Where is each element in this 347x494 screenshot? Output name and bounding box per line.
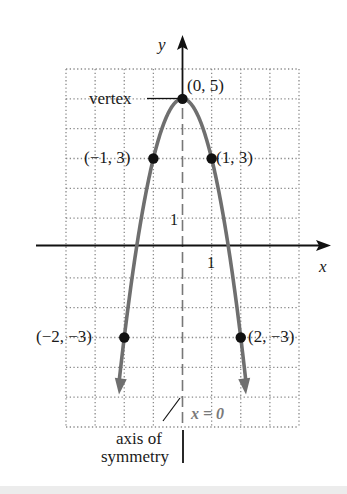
point-label-0-5: (0, 5)	[187, 76, 224, 95]
data-point	[119, 332, 129, 342]
curve-arrow-right-icon	[238, 378, 250, 395]
curve-arrow-left-icon	[115, 378, 127, 395]
parabola-chart: y x 1 1 vertex (0, 5) (−1, 3) (1, 3) (−2…	[0, 0, 347, 494]
vertex-label: vertex	[89, 89, 132, 108]
point-label-neg1-3: (−1, 3)	[84, 148, 130, 167]
data-point	[177, 94, 187, 104]
y-tick-label-1: 1	[170, 211, 178, 228]
point-label-neg2-neg3: (−2, −3)	[36, 327, 92, 346]
data-point	[236, 332, 246, 342]
axis-of-symmetry-pointer-line	[163, 398, 180, 421]
x-tick-label-1: 1	[207, 254, 215, 271]
data-point	[148, 153, 158, 163]
point-label-2-neg3: (2, −3)	[248, 327, 294, 346]
point-label-1-3: (1, 3)	[216, 148, 253, 167]
axis-of-symmetry-label-line2: symmetry	[101, 447, 169, 466]
axis-of-symmetry-label-line1: axis of	[116, 429, 162, 448]
bottom-band	[0, 486, 347, 494]
axis-equation-label: x = 0	[190, 405, 224, 422]
y-axis-label: y	[156, 35, 166, 54]
x-axis-label: x	[318, 257, 327, 276]
